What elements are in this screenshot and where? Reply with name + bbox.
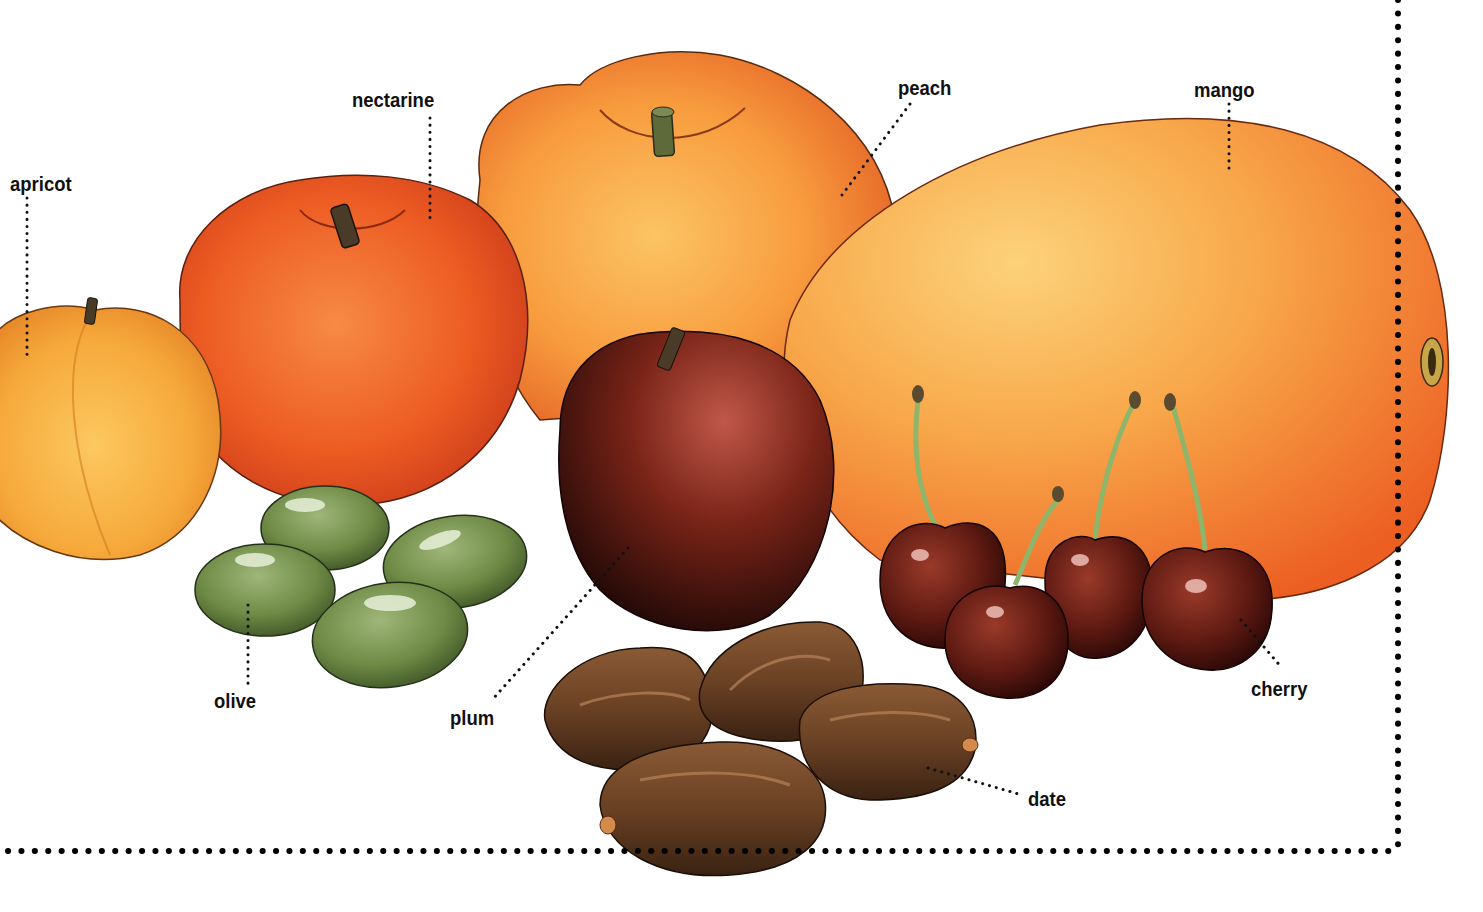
plum-fruit xyxy=(559,327,834,631)
label-cherry: cherry xyxy=(1251,677,1308,701)
label-apricot: apricot xyxy=(10,172,72,196)
label-mango: mango xyxy=(1194,78,1255,102)
label-olive: olive xyxy=(214,689,256,713)
apricot-fruit xyxy=(0,297,221,559)
label-plum: plum xyxy=(450,706,494,730)
nectarine-fruit xyxy=(180,175,528,505)
label-date: date xyxy=(1028,787,1066,811)
olive-group xyxy=(195,486,533,697)
label-nectarine: nectarine xyxy=(352,88,434,112)
date-group xyxy=(545,622,978,876)
illustration-canvas xyxy=(0,0,1483,912)
label-peach: peach xyxy=(898,76,951,100)
fruit-illustration: apricot nectarine peach mango olive plum… xyxy=(0,0,1483,912)
